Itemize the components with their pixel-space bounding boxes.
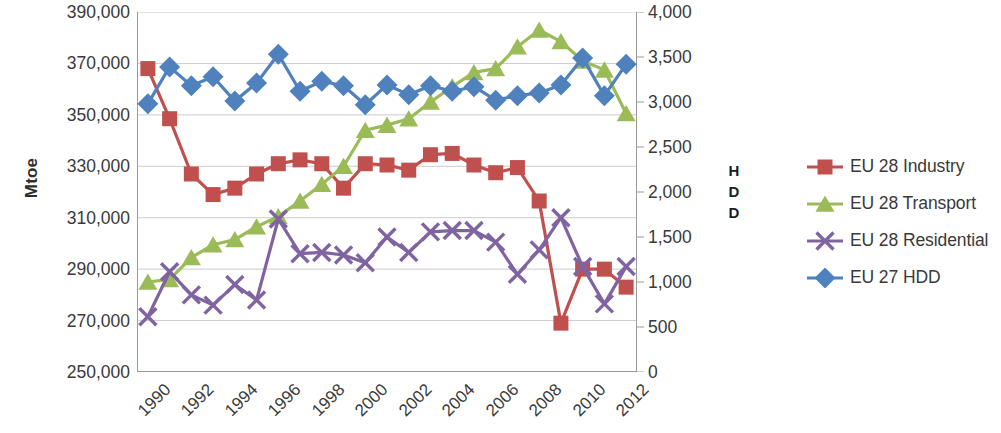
data-point-x <box>618 258 635 275</box>
data-point-triangle <box>551 33 570 49</box>
y-axis-left-ticks: 250,000270,000290,000310,000330,000350,0… <box>30 0 130 433</box>
legend-item-label: EU 28 Transport <box>850 193 976 214</box>
data-point-x <box>509 266 526 283</box>
data-point-triangle <box>530 21 549 37</box>
data-point-square <box>553 316 568 331</box>
legend-item-label: EU 27 HDD <box>850 267 941 288</box>
legend-item[interactable]: EU 27 HDD <box>806 259 1001 296</box>
y-axis-right-tick-label: 3,500 <box>648 47 728 68</box>
data-point-square <box>445 146 460 161</box>
y-axis-right-title-char: D <box>722 202 746 223</box>
data-point-x <box>226 276 243 293</box>
y-axis-left-tick-label: 390,000 <box>38 2 130 23</box>
data-point-square <box>423 147 438 162</box>
data-point-x <box>205 297 222 314</box>
data-point-triangle <box>247 218 266 234</box>
legend-item[interactable]: EU 28 Transport <box>806 185 1001 222</box>
y-axis-right-tick-label: 3,000 <box>648 92 728 113</box>
chart-container: Mtoe 250,000270,000290,000310,000330,000… <box>0 0 1001 433</box>
series-eu-28-residential <box>139 209 634 325</box>
data-point-square <box>184 167 199 182</box>
series-eu-28-transport <box>138 21 635 289</box>
y-axis-right-title: HDD <box>722 160 746 223</box>
data-point-x <box>596 295 613 312</box>
data-point-diamond <box>507 85 528 106</box>
data-point-x <box>400 244 417 261</box>
y-axis-left-tick-label: 350,000 <box>38 104 130 125</box>
y-axis-right-tick-label: 1,500 <box>648 227 728 248</box>
legend-item-label: EU 28 Residential <box>850 230 988 251</box>
data-point-square <box>380 158 395 173</box>
data-point-square <box>510 160 525 175</box>
data-point-x <box>531 241 548 258</box>
plot-area <box>137 12 637 372</box>
data-point-x <box>183 286 200 303</box>
data-point-square <box>336 181 351 196</box>
x-axis-ticks: 1990199219941996199820002002200420062008… <box>137 372 637 433</box>
data-point-square <box>619 280 634 295</box>
data-point-diamond <box>290 81 311 102</box>
chart-legend: EU 28 IndustryEU 28 TransportEU 28 Resid… <box>806 148 1001 296</box>
data-point-square <box>488 165 503 180</box>
data-point-diamond <box>815 268 836 288</box>
y-axis-left-tick-label: 270,000 <box>38 310 130 331</box>
data-point-diamond <box>594 85 615 106</box>
y-axis-right-tick-label: 4,000 <box>648 2 728 23</box>
data-point-diamond <box>442 81 463 102</box>
y-axis-left-tick-label: 290,000 <box>38 259 130 280</box>
legend-item[interactable]: EU 28 Residential <box>806 222 1001 259</box>
y-axis-right-tick-label: 500 <box>648 317 728 338</box>
chart-svg <box>137 12 645 372</box>
series-eu-28-industry <box>140 61 633 331</box>
data-point-triangle <box>182 249 201 265</box>
data-point-x <box>357 254 374 271</box>
series-line <box>148 218 626 317</box>
y-axis-left-tick-label: 250,000 <box>38 362 130 383</box>
data-point-square <box>271 156 286 171</box>
y-axis-left-tick-label: 370,000 <box>38 53 130 74</box>
data-point-square <box>597 262 612 277</box>
series-eu-27-hdd <box>137 44 636 115</box>
legend-item-label: EU 28 Industry <box>850 156 964 177</box>
data-point-triangle <box>617 105 636 121</box>
data-point-square <box>466 158 481 173</box>
data-point-diamond <box>311 71 332 92</box>
data-point-square <box>818 159 833 174</box>
data-point-diamond <box>529 83 550 104</box>
data-point-x <box>379 229 396 246</box>
data-point-square <box>140 61 155 76</box>
data-point-triangle <box>225 231 244 247</box>
data-point-square <box>249 167 264 182</box>
y-axis-right-tick-label: 2,500 <box>648 137 728 158</box>
data-point-diamond <box>398 84 419 105</box>
y-axis-right-tick-label: 1,000 <box>648 272 728 293</box>
data-point-square <box>358 156 373 171</box>
data-point-square <box>293 152 308 167</box>
y-axis-left-tick-label: 310,000 <box>38 207 130 228</box>
series-line <box>148 30 626 282</box>
data-point-square <box>401 163 416 178</box>
data-point-square <box>162 111 177 126</box>
legend-marker-square-icon <box>806 157 844 177</box>
data-point-square <box>314 156 329 171</box>
data-point-diamond <box>485 90 506 111</box>
data-point-x <box>139 308 156 325</box>
data-point-square <box>227 181 242 196</box>
y-axis-right-title-char: D <box>722 181 746 202</box>
data-point-diamond <box>616 54 637 75</box>
legend-item[interactable]: EU 28 Industry <box>806 148 1001 185</box>
data-point-diamond <box>137 93 158 114</box>
data-point-square <box>532 194 547 209</box>
legend-marker-x-icon <box>806 231 844 251</box>
right-axis-ticks <box>637 12 644 372</box>
y-axis-left-tick-label: 330,000 <box>38 156 130 177</box>
data-point-x <box>487 234 504 251</box>
y-axis-right-tick-label: 2,000 <box>648 182 728 203</box>
legend-marker-triangle-icon <box>806 194 844 214</box>
data-point-square <box>206 187 221 202</box>
legend-marker-diamond-icon <box>806 268 844 288</box>
y-axis-right-title-char: H <box>722 160 746 181</box>
data-point-diamond <box>420 75 441 96</box>
y-axis-right-tick-label: 0 <box>648 362 728 383</box>
